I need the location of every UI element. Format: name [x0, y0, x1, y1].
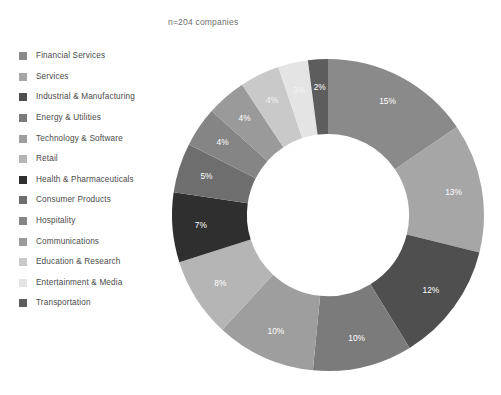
legend-swatch-icon [19, 196, 27, 204]
donut-slice-label: 8% [214, 278, 227, 288]
legend-item-label: Transportation [36, 299, 91, 307]
donut-slice-label: 10% [348, 333, 365, 343]
legend-swatch-icon [19, 93, 27, 101]
legend-item-label: Health & Pharmaceuticals [36, 176, 134, 184]
legend-item-label: Technology & Software [36, 135, 123, 143]
donut-slice-label: 4% [266, 95, 279, 105]
legend-swatch-icon [19, 258, 27, 266]
legend-item-label: Hospitality [36, 217, 75, 225]
legend-swatch-icon [19, 52, 27, 60]
legend-item-label: Education & Research [36, 258, 120, 266]
legend-item-label: Financial Services [36, 52, 105, 60]
donut-chart: 15%13%12%10%10%8%7%5%4%4%4%3%2% [168, 55, 488, 375]
legend-swatch-icon [19, 238, 27, 246]
legend-swatch-icon [19, 114, 27, 122]
legend-item[interactable]: Entertainment & Media [19, 273, 159, 294]
legend-item[interactable]: Technology & Software [19, 128, 159, 149]
donut-slice-label: 13% [445, 187, 462, 197]
legend-swatch-icon [19, 279, 27, 287]
donut-slice-label: 4% [217, 137, 230, 147]
donut-slice-label: 12% [423, 285, 440, 295]
legend-item[interactable]: Industrial & Manufacturing [19, 87, 159, 108]
legend-swatch-icon [19, 135, 27, 143]
legend-item[interactable]: Consumer Products [19, 190, 159, 211]
legend-swatch-icon [19, 299, 27, 307]
chart-page: n=204 companies Financial ServicesServic… [0, 0, 501, 395]
donut-slice-label: 5% [200, 171, 213, 181]
donut-slice-label: 15% [379, 96, 396, 106]
legend-item[interactable]: Hospitality [19, 211, 159, 232]
sample-size-note: n=204 companies [168, 17, 238, 27]
legend-item-label: Consumer Products [36, 196, 111, 204]
legend-item[interactable]: Services [19, 67, 159, 88]
legend-item-label: Entertainment & Media [36, 279, 122, 287]
legend-item-label: Energy & Utilities [36, 114, 101, 122]
legend-item-label: Retail [36, 155, 58, 163]
legend-item[interactable]: Energy & Utilities [19, 108, 159, 129]
donut-slice-label: 7% [195, 220, 208, 230]
donut-slice-label: 3% [293, 85, 306, 95]
legend-swatch-icon [19, 176, 27, 184]
donut-slice-label: 10% [267, 326, 284, 336]
legend-item[interactable]: Financial Services [19, 46, 159, 67]
donut-slice-group [172, 59, 484, 371]
legend-item-label: Services [36, 73, 69, 81]
legend-swatch-icon [19, 73, 27, 81]
donut-slice-label: 4% [239, 113, 252, 123]
legend-item-label: Industrial & Manufacturing [36, 93, 135, 101]
legend-item-label: Communications [36, 238, 99, 246]
legend-item[interactable]: Transportation [19, 293, 159, 314]
legend-item[interactable]: Retail [19, 149, 159, 170]
legend-item[interactable]: Education & Research [19, 252, 159, 273]
legend-swatch-icon [19, 155, 27, 163]
chart-legend: Financial ServicesServicesIndustrial & M… [19, 46, 159, 314]
donut-chart-svg: 15%13%12%10%10%8%7%5%4%4%4%3%2% [168, 55, 488, 375]
legend-swatch-icon [19, 217, 27, 225]
legend-item[interactable]: Communications [19, 231, 159, 252]
legend-item[interactable]: Health & Pharmaceuticals [19, 170, 159, 191]
donut-slice-label: 2% [314, 82, 327, 92]
